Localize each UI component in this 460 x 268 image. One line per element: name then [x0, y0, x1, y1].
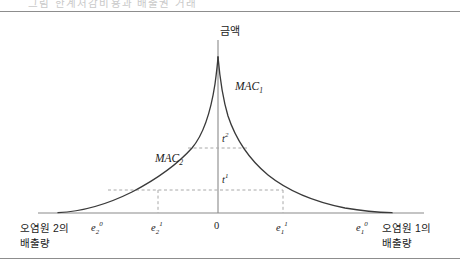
mac1-curve-label: MAC1	[235, 80, 263, 95]
mac2-subscript: 2	[179, 158, 183, 167]
t1-tick-label: t1	[222, 172, 228, 185]
left-x-axis-label: 오염원 2의 배출량	[20, 221, 69, 251]
e2-1-superscript: 1	[159, 220, 162, 227]
e2-1-tick-label: e21	[151, 220, 163, 235]
right-x-axis-label-line2: 배출량	[382, 236, 431, 251]
e2-1-subscript: 2	[156, 228, 159, 235]
origin-label: 0	[214, 220, 219, 231]
mac1-base: MAC	[235, 80, 259, 92]
t1-superscript: 1	[225, 172, 228, 179]
e2-0-subscript: 2	[96, 228, 99, 235]
t2-tick-label: t2	[222, 131, 228, 144]
mac2-curve	[58, 57, 218, 213]
mac1-subscript: 1	[259, 86, 263, 95]
e1-0-subscript: 1	[361, 228, 364, 235]
left-x-axis-label-line1: 오염원 2의	[20, 221, 69, 236]
e1-0-superscript: 0	[364, 220, 367, 227]
right-x-axis-label-line1: 오염원 1의	[382, 221, 431, 236]
e1-1-superscript: 1	[284, 220, 287, 227]
mac2-curve-label: MAC2	[155, 152, 183, 167]
figure-container: 그림 한계저감비용과 배출권 거래 금액 0 MAC1 MAC2 t2 t1 e…	[0, 0, 460, 268]
e2-0-superscript: 0	[99, 220, 102, 227]
e1-1-tick-label: e11	[276, 220, 288, 235]
t2-superscript: 2	[225, 131, 228, 138]
left-x-axis-label-line2: 배출량	[20, 236, 69, 251]
e1-0-tick-label: e10	[356, 220, 368, 235]
right-x-axis-label: 오염원 1의 배출량	[382, 221, 431, 251]
y-axis-label: 금액	[0, 22, 460, 38]
mac2-base: MAC	[155, 152, 179, 164]
e2-0-tick-label: e20	[91, 220, 103, 235]
e1-1-subscript: 1	[281, 228, 284, 235]
